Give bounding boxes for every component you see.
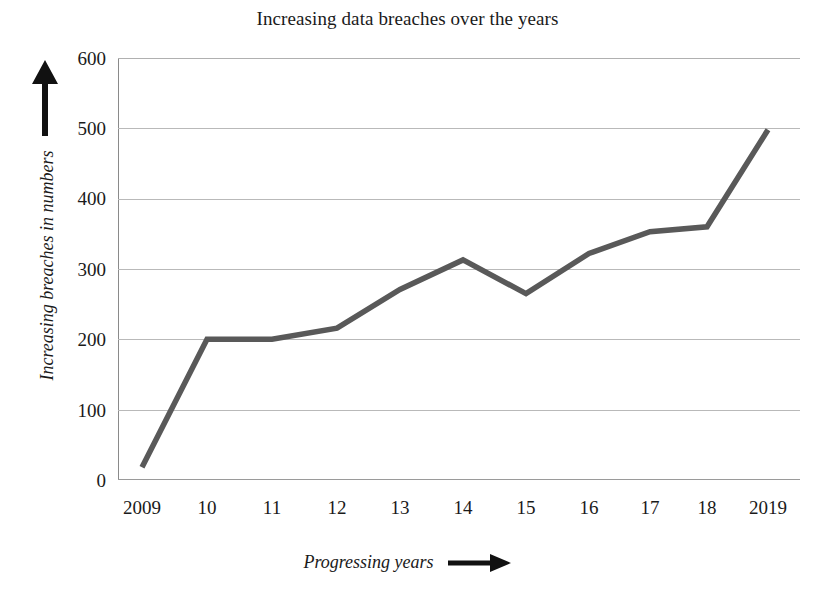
x-tick-label-11: 11: [237, 497, 307, 519]
x-axis-arrow-icon: [448, 553, 512, 573]
x-tick-label-18: 18: [672, 497, 742, 519]
x-tick-label-12: 12: [302, 497, 372, 519]
y-tick-label-0: 0: [46, 470, 106, 492]
x-axis-title: Progressing years: [303, 552, 433, 573]
x-tick-label-2009: 2009: [107, 497, 177, 519]
x-tick-label-14: 14: [428, 497, 498, 519]
y-tick-label-100: 100: [46, 400, 106, 422]
x-tick-label-15: 15: [491, 497, 561, 519]
y-tick-label-500: 500: [46, 118, 106, 140]
x-axis-title-group: Progressing years: [0, 552, 815, 573]
y-tick-label-600: 600: [46, 48, 106, 70]
plot-area: [118, 58, 800, 480]
y-tick-label-200: 200: [46, 329, 106, 351]
y-tick-label-300: 300: [46, 259, 106, 281]
chart-title: Increasing data breaches over the years: [0, 8, 815, 30]
x-tick-label-2019: 2019: [733, 497, 803, 519]
data-series-line: [118, 58, 800, 480]
chart-container: Increasing data breaches over the years …: [0, 0, 815, 613]
x-tick-label-10: 10: [172, 497, 242, 519]
y-tick-label-400: 400: [46, 188, 106, 210]
x-tick-label-16: 16: [554, 497, 624, 519]
x-tick-label-13: 13: [365, 497, 435, 519]
